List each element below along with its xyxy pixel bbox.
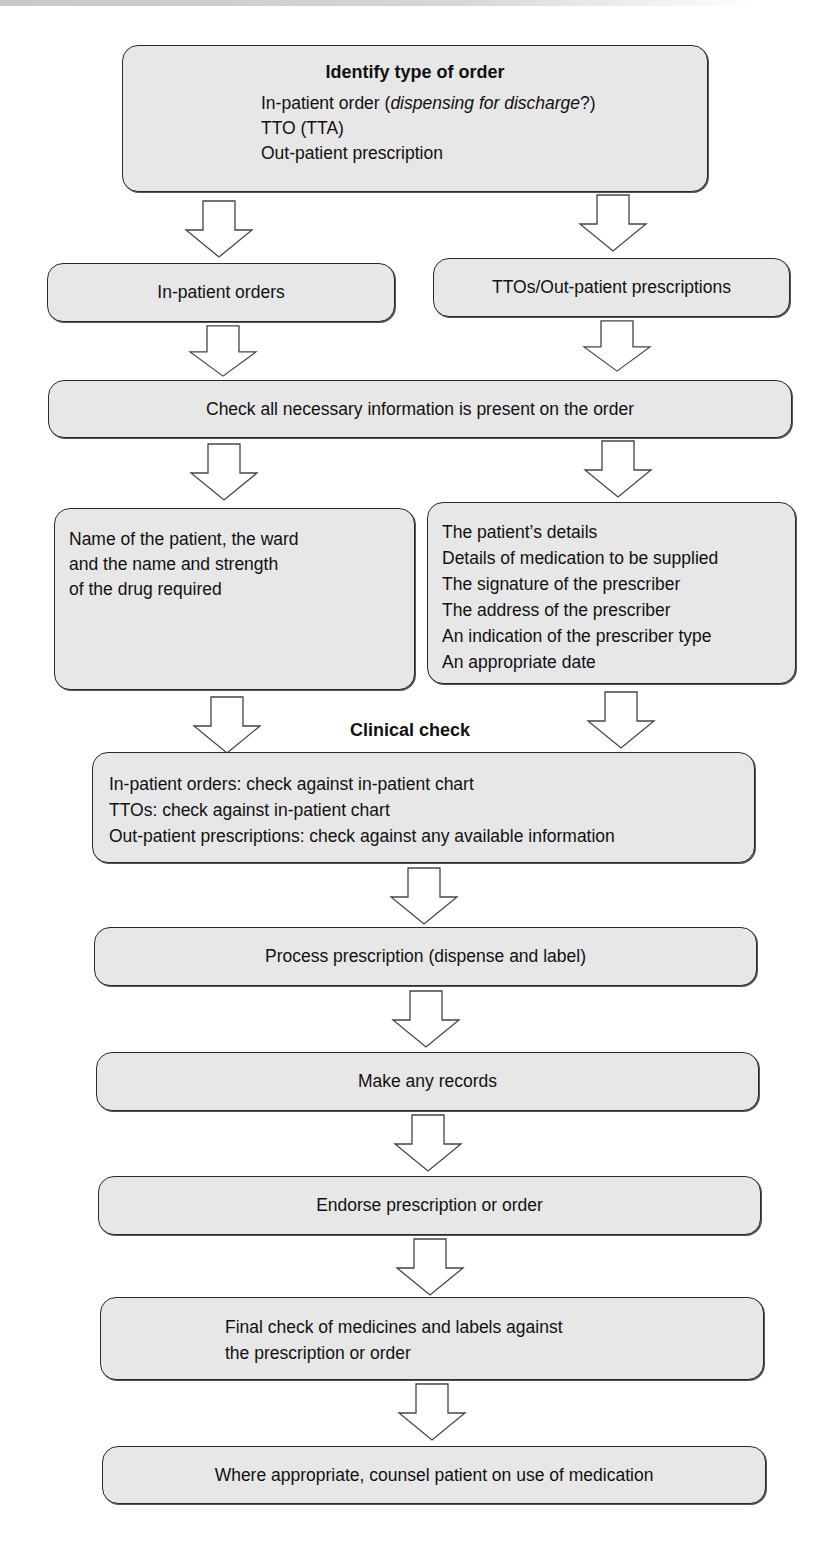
outpatient-detail-line: The address of the prescriber (442, 597, 795, 623)
down-arrow-icon (391, 990, 461, 1048)
process-prescription-box: Process prescription (dispense and label… (94, 927, 757, 986)
make-records-box: Make any records (96, 1052, 759, 1111)
outpatient-details-box: The patient’s details Details of medicat… (427, 502, 796, 684)
identify-order-title: Identify type of order (123, 60, 707, 85)
tto-outpatient-box: TTOs/Out-patient prescriptions (433, 258, 790, 317)
outpatient-detail-line: An indication of the prescriber type (442, 623, 795, 649)
down-arrow-icon (189, 443, 259, 501)
check-information-label: Check all necessary information is prese… (206, 397, 634, 422)
inpatient-detail-line: of the drug required (69, 577, 414, 602)
down-arrow-icon (389, 867, 459, 925)
outpatient-detail-line: The patient’s details (442, 519, 795, 545)
down-arrow-icon (578, 194, 648, 252)
outpatient-detail-line: Details of medication to be supplied (442, 545, 795, 571)
check-information-box: Check all necessary information is prese… (48, 380, 792, 438)
endorse-label: Endorse prescription or order (316, 1193, 543, 1218)
clinical-check-line: Out-patient prescriptions: check against… (109, 823, 754, 849)
counsel-label: Where appropriate, counsel patient on us… (215, 1463, 654, 1488)
tto-outpatient-label: TTOs/Out-patient prescriptions (492, 275, 731, 300)
make-records-label: Make any records (358, 1069, 497, 1094)
page-edge-shadow (0, 0, 760, 6)
clinical-check-line: In-patient orders: check against in-pati… (109, 771, 754, 797)
final-check-line: Final check of medicines and labels agai… (225, 1314, 763, 1340)
down-arrow-icon (192, 696, 262, 754)
final-check-line: the prescription or order (225, 1340, 763, 1366)
identify-line-tto: TTO (TTA) (261, 116, 707, 141)
outpatient-detail-line: The signature of the prescriber (442, 571, 795, 597)
inpatient-detail-line: Name of the patient, the ward (69, 527, 414, 552)
inpatient-orders-label: In-patient orders (157, 280, 284, 305)
inpatient-detail-line: and the name and strength (69, 552, 414, 577)
outpatient-detail-line: An appropriate date (442, 649, 795, 675)
process-prescription-label: Process prescription (dispense and label… (265, 944, 586, 969)
down-arrow-icon (583, 440, 653, 498)
down-arrow-icon (582, 320, 652, 372)
down-arrow-icon (188, 325, 258, 377)
clinical-check-line: TTOs: check against in-patient chart (109, 797, 754, 823)
final-check-box: Final check of medicines and labels agai… (100, 1297, 764, 1380)
down-arrow-icon (395, 1238, 465, 1296)
clinical-check-heading: Clinical check (350, 720, 470, 741)
down-arrow-icon (393, 1114, 463, 1172)
down-arrow-icon (184, 200, 254, 258)
inpatient-orders-box: In-patient orders (47, 263, 395, 322)
down-arrow-icon (586, 691, 656, 749)
identify-line-inpatient: In-patient order (dispensing for dischar… (261, 91, 707, 116)
endorse-box: Endorse prescription or order (98, 1176, 761, 1235)
inpatient-details-box: Name of the patient, the ward and the na… (54, 508, 415, 690)
identify-order-box: Identify type of order In-patient order … (122, 45, 708, 192)
down-arrow-icon (397, 1383, 467, 1441)
identify-line-outpatient: Out-patient prescription (261, 141, 707, 166)
counsel-box: Where appropriate, counsel patient on us… (102, 1446, 766, 1504)
clinical-check-box: In-patient orders: check against in-pati… (92, 752, 755, 863)
